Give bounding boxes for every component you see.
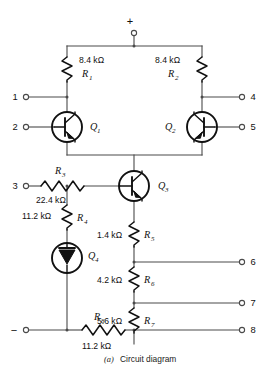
resistor-R1-name-letter: R [81, 68, 89, 79]
resistor-R8-name-letter: R [93, 311, 101, 322]
terminal-label-2: 2 [12, 121, 17, 132]
resistor-R1-value: 8.4 kΩ [79, 55, 105, 65]
transistor-Q4-sub: 4 [95, 256, 99, 264]
terminal-label-5: 5 [250, 121, 255, 132]
transistor-Q2 [187, 112, 217, 142]
resistor-R5-name: R 5 [143, 229, 155, 243]
resistor-R8-value: 11.2 kΩ [82, 341, 112, 351]
transistor-Q1-sub: 1 [97, 127, 101, 135]
resistor-R3-name: R 3 [54, 165, 66, 179]
resistor-R4-name: R 4 [76, 212, 88, 226]
terminal-label-7: 7 [250, 297, 255, 308]
resistor-R6-name-letter: R [143, 274, 151, 285]
junction-dot-q1-collector [66, 96, 69, 99]
supply-minus-label: − [11, 324, 17, 336]
terminal-circle-plus[interactable] [131, 30, 136, 35]
resistor-R5-name-letter: R [143, 229, 151, 240]
junction-dots [66, 45, 204, 332]
transistor-Q4-label: Q 4 [88, 250, 99, 264]
terminal-label-4: 4 [250, 91, 255, 102]
resistor-R1-name-sub: 1 [89, 74, 93, 82]
resistor-R3 [41, 181, 84, 191]
resistor-R7-name-sub: 7 [151, 321, 155, 329]
junction-dot-bottom-left [66, 329, 69, 332]
resistor-R6-name: R 6 [143, 274, 155, 288]
resistor-R5 [129, 222, 139, 247]
resistor-R7-name-letter: R [143, 315, 151, 326]
resistor-R2-name-letter: R [167, 68, 175, 79]
transistor-Q3 [119, 171, 149, 201]
terminal-circle-4[interactable] [239, 94, 244, 99]
junction-dot-tap6 [133, 261, 136, 264]
resistor-R2-value: 8.4 kΩ [155, 55, 181, 65]
transistor-Q2-sub: 2 [172, 127, 176, 135]
terminal-label-6: 6 [250, 256, 255, 267]
resistor-R1-name: R 1 [81, 68, 93, 82]
figure-caption-text: Circuit diagram [120, 354, 176, 364]
resistor-R5-name-sub: 5 [151, 235, 155, 243]
resistor-R4 [62, 205, 72, 230]
transistor-Q3-label: Q 3 [158, 180, 169, 194]
resistor-R3-name-letter: R [54, 165, 62, 176]
resistor-R8 [82, 325, 125, 335]
circuit-diagram-svg: + − 1 2 3 4 5 6 7 8 8.4 kΩ R 1 8.4 kΩ R … [0, 0, 269, 372]
junction-dot-supply [133, 45, 136, 48]
terminal-label-1: 1 [12, 91, 17, 102]
terminal-circle-6[interactable] [239, 259, 244, 264]
terminal-circle-7[interactable] [239, 300, 244, 305]
resistor-R4-value: 11.2 kΩ [22, 211, 52, 221]
terminal-circle-1[interactable] [23, 94, 28, 99]
transistor-Q1-label: Q 1 [90, 121, 101, 135]
junction-dot-q2-collector [201, 96, 204, 99]
supply-plus-label: + [127, 15, 133, 27]
terminal-circle-2[interactable] [23, 124, 28, 129]
terminal-label-8: 8 [250, 324, 255, 335]
terminal-circle-minus[interactable] [23, 327, 28, 332]
terminal-circles [23, 30, 244, 332]
resistor-R6-value: 4.2 kΩ [97, 275, 123, 285]
transistor-Q3-sub: 3 [164, 186, 169, 194]
terminal-circle-8[interactable] [239, 327, 244, 332]
figure-caption-marker: (a) [104, 355, 114, 364]
resistor-R7-name: R 7 [143, 315, 155, 329]
wires [29, 35, 240, 344]
circuit-figure: + − 1 2 3 4 5 6 7 8 8.4 kΩ R 1 8.4 kΩ R … [0, 0, 269, 372]
resistor-R2 [197, 57, 207, 82]
resistor-R4-name-letter: R [76, 212, 84, 223]
resistor-R6-name-sub: 6 [151, 280, 155, 288]
resistor-R2-name-sub: 2 [175, 74, 179, 82]
junction-dot-tap7 [133, 302, 136, 305]
resistor-R1 [62, 57, 72, 82]
resistor-R3-value: 22.4 kΩ [36, 195, 66, 205]
resistor-R4-name-sub: 4 [84, 218, 88, 226]
terminal-label-3: 3 [12, 180, 17, 191]
terminal-circle-3[interactable] [23, 183, 28, 188]
transistor-Q4 [52, 243, 82, 273]
resistor-R5-value: 1.4 kΩ [97, 230, 123, 240]
terminal-circle-5[interactable] [239, 124, 244, 129]
resistor-R8-name-sub: 8 [101, 317, 105, 325]
resistor-R3-name-sub: 3 [61, 171, 66, 179]
transistor-Q1 [52, 112, 82, 142]
transistor-Q2-label: Q 2 [165, 121, 176, 135]
resistor-R6 [129, 267, 139, 292]
resistor-R2-name: R 2 [167, 68, 179, 82]
